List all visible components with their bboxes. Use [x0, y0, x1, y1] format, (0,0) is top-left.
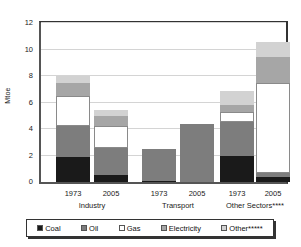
y-tick-label: 10	[14, 45, 33, 54]
y-tick-label: 8	[14, 71, 33, 80]
bar-industry-1973	[56, 76, 90, 182]
chart-figure: Mtoe 0 2 4 6 8 10 12 1973 2005 1973 2005…	[0, 0, 301, 247]
bar-segment-gas	[256, 83, 290, 173]
bar-segment-gas	[220, 112, 254, 123]
x-tick-label-year: 1973	[139, 189, 179, 198]
legend-item-oil: Oil	[81, 224, 98, 233]
plot-inner	[41, 23, 286, 182]
legend-label-other: Other*****	[229, 224, 262, 233]
x-tick-label-year: 1973	[217, 189, 257, 198]
bar-other-sectors--2005	[256, 42, 290, 182]
legend-swatch-other-icon	[221, 225, 227, 231]
bar-segment-oil	[94, 148, 128, 176]
bar-segment-electricity	[56, 83, 90, 96]
bar-segment-oil	[180, 124, 214, 182]
bar-segment-other	[56, 76, 90, 83]
legend-label-gas: Gas	[127, 224, 141, 233]
x-group-label-other-sectors: Other Sectors****	[200, 201, 301, 210]
legend-label-electricity: Electricity	[169, 224, 201, 233]
bar-segment-coal	[142, 181, 176, 182]
bar-segment-gas	[94, 126, 128, 147]
legend-item-electricity: Electricity	[161, 224, 201, 233]
y-tick-label: 2	[14, 151, 33, 160]
bar-segment-oil	[56, 126, 90, 156]
bar-segment-other	[256, 42, 290, 58]
bar-segment-coal	[220, 156, 254, 183]
bar-industry-2005	[94, 110, 128, 182]
legend-item-other: Other*****	[221, 224, 262, 233]
legend-swatch-oil-icon	[81, 225, 87, 231]
legend-item-coal: Coal	[37, 224, 60, 233]
bar-segment-oil	[256, 173, 290, 178]
legend-swatch-gas-icon	[119, 225, 125, 231]
x-tick-label-year: 2005	[177, 189, 217, 198]
legend-item-gas: Gas	[119, 224, 141, 233]
y-tick-label: 4	[14, 124, 33, 133]
y-axis-title: Mtoe	[4, 73, 11, 119]
y-tick-label: 6	[14, 98, 33, 107]
bar-segment-other	[220, 91, 254, 106]
bar-segment-electricity	[220, 105, 254, 112]
bar-segment-gas	[56, 96, 90, 126]
legend-label-oil: Oil	[89, 224, 98, 233]
gridline	[41, 49, 286, 50]
bar-segment-coal	[94, 175, 128, 182]
x-tick-label-year: 2005	[91, 189, 131, 198]
chart-legend: Coal Oil Gas Electricity Other*****	[26, 219, 274, 237]
bar-other-sectors--1973	[220, 91, 254, 182]
gridline	[41, 22, 286, 23]
bar-segment-coal	[256, 177, 290, 182]
bar-segment-oil	[142, 149, 176, 181]
y-tick-label: 12	[14, 18, 33, 27]
bar-transport-1973	[142, 149, 176, 182]
bar-segment-coal	[56, 157, 90, 182]
x-tick-label-year: 2005	[253, 189, 293, 198]
bar-segment-other	[94, 110, 128, 115]
legend-swatch-coal-icon	[37, 225, 43, 231]
plot-area	[39, 21, 288, 184]
bar-segment-electricity	[256, 57, 290, 82]
y-tick-label: 0	[14, 177, 33, 186]
x-tick-label-year: 1973	[53, 189, 93, 198]
legend-label-coal: Coal	[45, 224, 60, 233]
bar-segment-oil	[220, 122, 254, 155]
bar-segment-electricity	[94, 116, 128, 127]
legend-swatch-electricity-icon	[161, 225, 167, 231]
bar-transport-2005	[180, 124, 214, 182]
